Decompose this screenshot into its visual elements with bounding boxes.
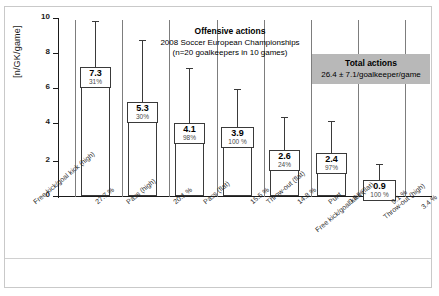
chart-subtitle-line-2: (n=20 goalkeepers in 10 games) xyxy=(150,48,310,58)
bar-value: 5.3 xyxy=(130,104,155,113)
bottom-divider xyxy=(5,258,431,259)
bar-percent: 100 % xyxy=(224,139,251,146)
error-bar xyxy=(284,117,285,151)
error-bar-cap xyxy=(234,89,241,90)
bar-value-box: 4.1 98% xyxy=(174,123,205,144)
category-separator xyxy=(311,20,312,197)
category-separator xyxy=(405,20,406,197)
total-actions-title: Total actions xyxy=(314,58,428,68)
y-tick-2: 2 xyxy=(53,161,58,162)
error-bar xyxy=(189,68,190,124)
category-separator xyxy=(358,20,359,197)
error-bar xyxy=(331,121,332,154)
y-tick-8: 8 xyxy=(53,53,58,54)
y-axis-label: [n/GK/game] xyxy=(12,25,22,78)
y-tick-0: 0 xyxy=(53,196,58,197)
error-bar-cap xyxy=(281,117,288,118)
y-tick-label-4: 4 xyxy=(46,117,50,126)
y-tick-label-2: 2 xyxy=(46,155,50,164)
bar-value-box: 7.3 31% xyxy=(80,67,111,88)
y-tick-label-8: 8 xyxy=(46,47,50,56)
figure-root: [n/GK/game] 10 8 6 4 2 0 xyxy=(0,0,439,296)
bar-value-box: 3.9 100 % xyxy=(221,127,254,148)
y-tick-label-10: 10 xyxy=(41,12,50,21)
bar-percent: 97% xyxy=(319,165,344,172)
total-actions-value: 26.4 ± 7.1/goalkeeper/game xyxy=(314,70,428,79)
error-bar-cap xyxy=(328,121,335,122)
error-bar-cap xyxy=(186,68,193,69)
y-tick-6: 6 xyxy=(53,88,58,89)
y-tick-label-6: 6 xyxy=(46,82,50,91)
bar-value-box: 2.4 97% xyxy=(316,153,347,174)
bar-value-box: 5.3 30% xyxy=(127,102,158,123)
error-bar xyxy=(95,21,96,68)
bar-value: 2.4 xyxy=(319,155,344,164)
y-tick-4: 4 xyxy=(53,123,58,124)
bar-percent: 98% xyxy=(177,135,202,142)
y-tick-10: 10 xyxy=(53,18,58,19)
bar-value: 4.1 xyxy=(177,125,202,134)
bar-percent: 24% xyxy=(272,162,297,169)
error-bar-cap xyxy=(376,164,383,165)
error-bar-cap xyxy=(92,21,99,22)
chart-title-block: Offensive actions 2008 Soccer European C… xyxy=(150,26,310,58)
category-separator xyxy=(122,20,123,197)
chart-subtitle-line-1: 2008 Soccer European Championships xyxy=(150,38,310,48)
chart-title: Offensive actions xyxy=(150,26,310,36)
bar-value-box: 2.6 24% xyxy=(269,150,300,171)
bar-value: 7.3 xyxy=(83,69,108,78)
error-bar xyxy=(379,164,380,181)
error-bar xyxy=(142,40,143,103)
bar-value: 3.9 xyxy=(224,129,251,138)
total-actions-box: Total actions 26.4 ± 7.1/goalkeeper/game xyxy=(312,54,430,84)
error-bar-cap xyxy=(139,40,146,41)
bar-percent: 31% xyxy=(83,79,108,86)
bar-percent: 100 % xyxy=(366,192,393,199)
bar-value: 2.6 xyxy=(272,152,297,161)
bar-percent: 30% xyxy=(130,114,155,121)
error-bar xyxy=(237,89,238,128)
